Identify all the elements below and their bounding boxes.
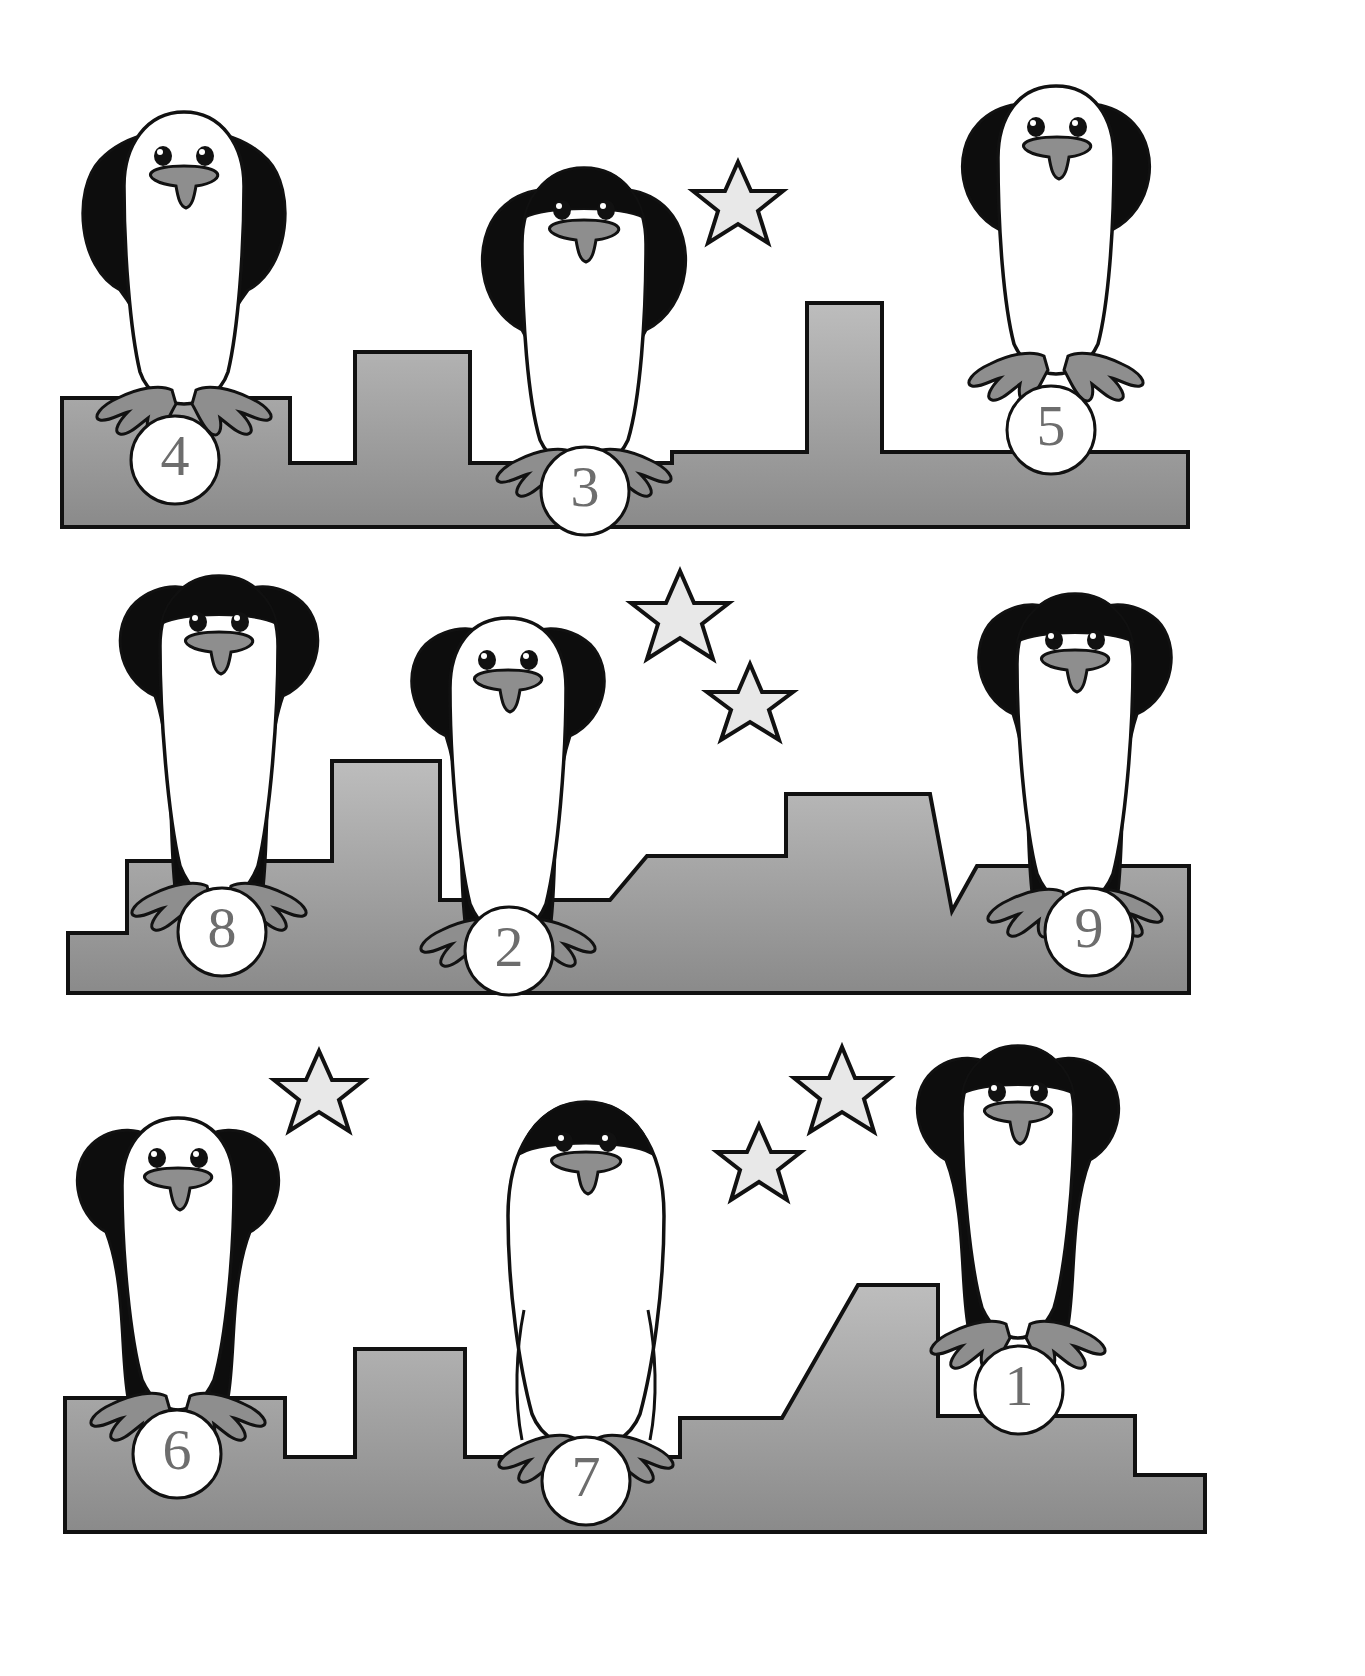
star-decoration: [693, 162, 783, 243]
handwritten-number: 7: [572, 1444, 601, 1509]
penguin-7: [499, 1102, 673, 1483]
star-decoration: [717, 1125, 801, 1200]
number-circle-3: 3: [541, 447, 629, 535]
row-1: 4 3: [0, 0, 1365, 560]
handwritten-number: 5: [1037, 393, 1066, 458]
penguin-4: [83, 112, 285, 435]
handwritten-number: 9: [1075, 895, 1104, 960]
worksheet-page: 4 3: [0, 0, 1365, 1676]
penguin-1: [917, 1046, 1118, 1369]
star-decoration: [274, 1051, 364, 1131]
handwritten-number: 4: [161, 423, 190, 488]
handwritten-number: 3: [571, 454, 600, 519]
number-circle-5: 5: [1007, 386, 1095, 474]
handwritten-number: 2: [495, 914, 524, 979]
star-decoration: [707, 664, 793, 740]
handwritten-number: 6: [163, 1417, 192, 1482]
number-circle-6: 6: [133, 1410, 221, 1498]
penguin-5: [962, 86, 1149, 401]
penguin-6: [77, 1118, 278, 1441]
number-circle-4: 4: [131, 416, 219, 504]
number-circle-7: 7: [542, 1437, 630, 1525]
number-circle-1: 1: [975, 1346, 1063, 1434]
star-decoration: [631, 571, 729, 659]
number-circle-2: 2: [465, 907, 553, 995]
star-decoration: [794, 1047, 890, 1132]
row-2: 8 2: [0, 556, 1365, 1026]
handwritten-number: 1: [1005, 1353, 1034, 1418]
handwritten-number: 8: [208, 895, 237, 960]
row-3: 6 7: [0, 1020, 1365, 1580]
number-circle-9: 9: [1045, 888, 1133, 976]
number-circle-8: 8: [178, 888, 266, 976]
